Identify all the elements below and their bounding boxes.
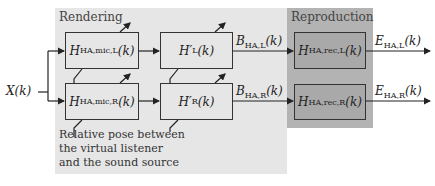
signal-b-right: BHA,R(k) [236,84,283,100]
block-rec-right: HHA,rec,R(k) [294,84,366,120]
block-hrtf-right: H′R(k) [160,83,233,120]
signal-b-left: BHA,L(k) [236,34,282,50]
signal-e-right: EHA,R(k) [375,84,422,100]
block-mic-right: HHA,mic,R(k) [65,83,139,120]
block-hrtf-left: H′L(k) [160,32,233,69]
signal-e-left: EHA,L(k) [375,34,421,50]
block-rec-left: HHA,rec,L(k) [294,32,366,69]
block-mic-left: HHA,mic,L(k) [65,32,139,69]
pose-note: Relative pose between the virtual listen… [59,128,185,170]
input-signal-label: X(k) [6,84,31,98]
